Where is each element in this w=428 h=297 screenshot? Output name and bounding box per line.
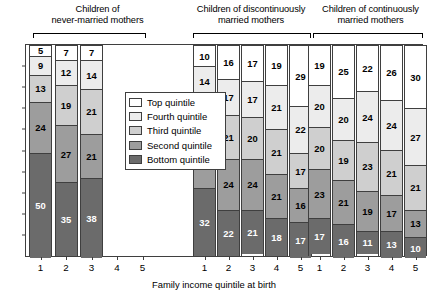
stacked-bar: 1920202317: [308, 45, 331, 256]
bar-segment-q3: 23: [357, 142, 378, 191]
bar-segment-q2: 24: [30, 102, 51, 153]
bar-segment-q2: 19: [357, 191, 378, 231]
bar-segment-q1: 38: [81, 178, 102, 258]
group-title-2: Children of discontinuouslymarried mothe…: [186, 4, 316, 26]
bar-segment-q1: 13: [381, 231, 402, 258]
group-title-line1: Children of: [10, 4, 185, 15]
x-tick-mark: [368, 257, 369, 260]
x-tick-mark: [117, 257, 118, 260]
bar-segment-q3: 21: [81, 89, 102, 133]
x-tick-label: 1: [198, 262, 212, 273]
x-tick-label: 5: [294, 262, 308, 273]
x-tick-label: 4: [270, 262, 284, 273]
legend-swatch-icon: [129, 155, 142, 164]
bar-segment-q5: 10: [194, 45, 215, 66]
x-axis-title: Family income quintile at birth: [0, 279, 428, 290]
group-title-1: Children ofnever-married mothers: [10, 4, 185, 26]
bar-segment-q1: 21: [242, 210, 263, 254]
bar-segment-q5: 19: [266, 45, 287, 85]
bar-segment-q2: 27: [56, 125, 77, 182]
x-tick-label: 3: [85, 262, 99, 273]
stacked-bar: 712192735: [55, 45, 78, 256]
x-tick-mark: [92, 257, 93, 260]
stacked-bar: 2624211713: [380, 45, 403, 256]
x-tick-mark: [205, 257, 206, 260]
bar-segment-q1: 11: [357, 231, 378, 254]
legend-item-q1: Bottom quintile: [129, 153, 222, 167]
x-tick-label: 3: [246, 262, 260, 273]
bar-segment-q5: 17: [242, 45, 263, 81]
bar-segment-q3: 21: [405, 165, 426, 209]
legend-item-q4: Fourth quintile: [129, 109, 222, 123]
bar-segment-q5: 19: [309, 45, 330, 85]
bar-segment-q3: 20: [309, 127, 330, 169]
x-tick-label: 5: [409, 262, 423, 273]
x-tick-mark: [301, 257, 302, 260]
x-tick-mark: [344, 257, 345, 260]
bar-segment-q5: 22: [357, 45, 378, 91]
legend-swatch-icon: [129, 141, 142, 150]
bar-segment-q4: 20: [333, 98, 354, 140]
bar-segment-q4: 27: [405, 108, 426, 165]
bar-segment-q1: 22: [218, 210, 239, 256]
stacked-bar: 3027211310: [404, 45, 427, 256]
legend-item-label: Third quintile: [147, 125, 201, 136]
bar-segment-q5: 30: [405, 45, 426, 108]
x-tick-label: 2: [222, 262, 236, 273]
legend-swatch-icon: [129, 126, 142, 135]
bar-segment-q5: 5: [30, 45, 51, 56]
x-tick-mark: [320, 257, 321, 260]
bar-segment-q1: 18: [266, 218, 287, 256]
bar-segment-q4: 21: [266, 85, 287, 129]
bar-segment-q2: 17: [381, 195, 402, 231]
bar-segment-q4: 24: [381, 100, 402, 151]
bar-segment-q2: 23: [309, 169, 330, 218]
x-tick-label: 1: [34, 262, 48, 273]
chart-figure: Children ofnever-married mothersChildren…: [0, 0, 428, 297]
bar-segment-q4: 17: [242, 81, 263, 117]
x-tick-label: 5: [136, 262, 150, 273]
bar-segment-q2: 21: [333, 180, 354, 224]
bar-segment-q2: 24: [242, 159, 263, 210]
legend-item-label: Bottom quintile: [147, 154, 210, 165]
legend-item-q2: Second quintile: [129, 138, 222, 152]
bar-segment-q3: 13: [30, 75, 51, 102]
group-title-line2: married mothers: [313, 15, 428, 26]
x-tick-mark: [229, 257, 230, 260]
bar-segment-q3: 19: [56, 85, 77, 125]
bar-segment-q5: 7: [81, 45, 102, 60]
bar-segment-q1: 35: [56, 182, 77, 256]
legend-item-label: Second quintile: [147, 140, 212, 151]
bar-segment-q1: 32: [194, 188, 215, 256]
bar-segment-q5: 16: [218, 45, 239, 79]
group-title-line1: Children of continuously: [313, 4, 428, 15]
group-title-line2: married mothers: [186, 15, 316, 26]
plot-area: 5913245071219273571421213810142024321617…: [25, 44, 423, 257]
group-bracket-2: [193, 33, 311, 38]
x-tick-mark: [66, 257, 67, 260]
bar-segment-q3: 21: [266, 129, 287, 173]
group-bracket-1: [33, 33, 146, 38]
legend-item-label: Top quintile: [147, 97, 195, 108]
legend-swatch-icon: [129, 112, 142, 121]
x-tick-label: 1: [313, 262, 327, 273]
stacked-bar: 1921212118: [265, 45, 288, 256]
x-tick-label: 3: [361, 262, 375, 273]
bar-segment-q4: 9: [30, 56, 51, 75]
bar-segment-q4: 24: [357, 91, 378, 142]
group-title-line2: never-married mothers: [10, 15, 185, 26]
bar-segment-q1: 10: [405, 237, 426, 258]
x-tick-mark: [277, 257, 278, 260]
legend-item-q3: Third quintile: [129, 124, 222, 138]
group-bracket-3: [313, 33, 423, 38]
bar-segment-q1: 50: [30, 153, 51, 259]
stacked-bar: 59132450: [29, 45, 52, 256]
stacked-bar: 1717202421: [241, 45, 264, 256]
bar-segment-q1: 16: [333, 224, 354, 258]
x-tick-label: 2: [59, 262, 73, 273]
bar-segment-q5: 25: [333, 45, 354, 98]
bar-segment-q5: 7: [56, 45, 77, 60]
bar-segment-q3: 20: [242, 117, 263, 159]
x-tick-label: 4: [385, 262, 399, 273]
bar-segment-q5: 26: [381, 45, 402, 100]
